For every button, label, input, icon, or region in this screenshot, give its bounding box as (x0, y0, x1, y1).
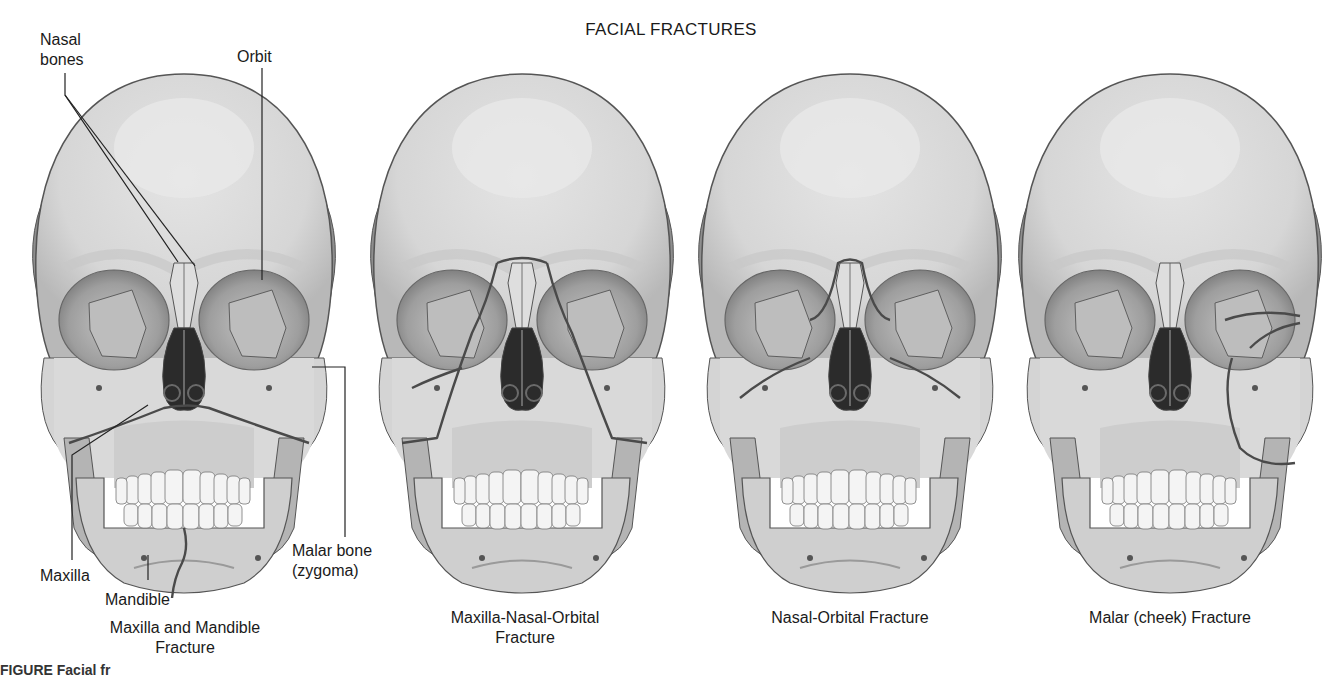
caption-panel-4: Malar (cheek) Fracture (1005, 608, 1335, 628)
label-orbit: Orbit (237, 47, 272, 67)
figure-caption-cropped: FIGURE Facial fr (0, 662, 110, 678)
skull-nasal-orbital-fracture (680, 58, 1020, 598)
diagram-title: FACIAL FRACTURES (0, 20, 1342, 40)
skull-maxilla-nasal-orbital-fracture (352, 58, 692, 598)
label-maxilla: Maxilla (40, 566, 90, 586)
skull-maxilla-mandible-fracture (14, 58, 354, 598)
caption-panel-3: Nasal-Orbital Fracture (685, 608, 1015, 628)
skull-malar-fracture (1000, 58, 1340, 598)
label-nasal-bones: Nasal bones (40, 30, 110, 70)
label-mandible: Mandible (105, 590, 170, 610)
label-malar-bone: Malar bone (zygoma) (292, 541, 372, 581)
caption-panel-2: Maxilla-Nasal-Orbital Fracture (360, 608, 690, 648)
caption-panel-1: Maxilla and Mandible Fracture (20, 618, 350, 658)
